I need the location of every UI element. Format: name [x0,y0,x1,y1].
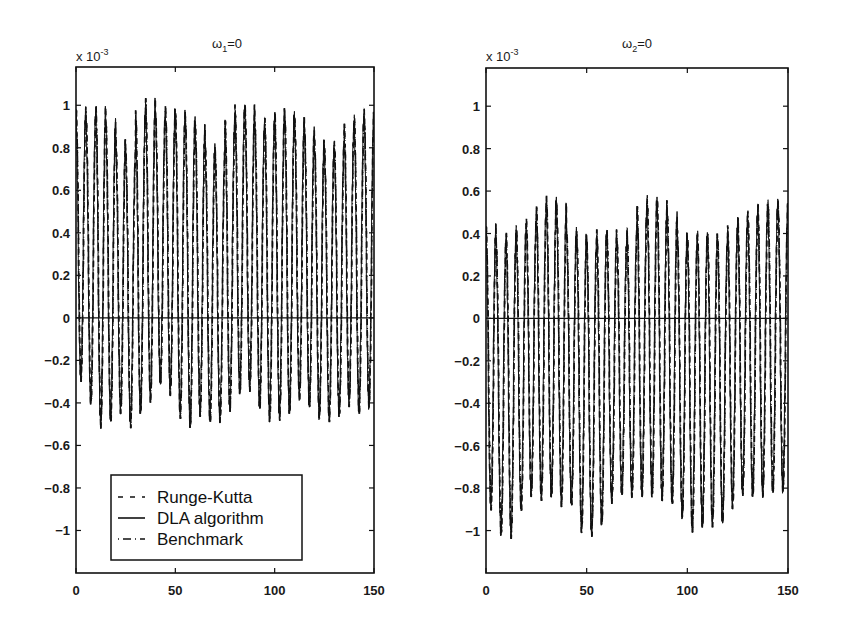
legend-label-benchmark: Benchmark [157,530,243,549]
right-plot: ω2=0 x 10-3 10.80.60.40.20−0.2−0.4−0.6−0… [454,36,799,598]
y-tick-label: 0.4 [462,227,481,242]
x-tick-label: 50 [579,583,593,598]
legend: Runge-Kutta DLA algorithm Benchmark [111,475,302,560]
left-plot-title: ω1=0 [212,36,242,54]
y-tick-label: −0.2 [44,353,70,368]
y-tick-label: −0.4 [454,396,480,411]
x-tick-label: 0 [72,583,79,598]
series-benchmark [76,99,374,429]
legend-label-dla: DLA algorithm [157,509,264,528]
y-tick-label: 0 [63,311,70,326]
right-plot-area [486,195,788,539]
omega-symbol: ω [212,36,222,51]
x-tick-label: 50 [168,583,182,598]
x-tick-label: 0 [482,583,489,598]
y-tick-label: 1 [473,99,480,114]
y-tick-label: 0.8 [462,142,480,157]
y-tick-label: −0.4 [44,396,70,411]
y-tick-label: 0.6 [462,184,480,199]
right-plot-title: ω2=0 [622,36,652,54]
y-tick-label: 0.8 [52,141,70,156]
right-multiplier-label: x 10-3 [486,47,519,64]
y-tick-label: 0.6 [52,183,70,198]
figure: ω1=0 x 10-3 10.80.60.40.20−0.2−0.4−0.6−0… [0,0,845,624]
left-plot-area [76,98,374,429]
left-plot: ω1=0 x 10-3 10.80.60.40.20−0.2−0.4−0.6−0… [44,36,385,598]
left-multiplier-label: x 10-3 [76,47,109,64]
y-tick-label: −0.8 [44,481,70,496]
y-tick-label: −0.6 [454,439,480,454]
y-tick-label: −1 [465,524,480,539]
omega-symbol: ω [622,36,632,51]
axes-frame [486,68,788,573]
right-axes: 10.80.60.40.20−0.2−0.4−0.6−0.8−105010015… [454,68,799,598]
x-tick-label: 100 [676,583,698,598]
y-tick-label: −0.2 [454,354,480,369]
x-tick-label: 150 [363,583,385,598]
title-rest: =0 [227,36,242,51]
y-tick-label: 0.2 [462,269,480,284]
y-tick-label: −1 [55,523,70,538]
title-rest: =0 [637,36,652,51]
y-tick-label: 0.2 [52,268,70,283]
legend-label-runge-kutta: Runge-Kutta [157,488,253,507]
y-tick-label: −0.8 [454,481,480,496]
y-tick-label: 0.4 [52,226,71,241]
y-tick-label: 1 [63,98,70,113]
y-tick-label: 0 [473,311,480,326]
x-tick-label: 100 [264,583,286,598]
y-tick-label: −0.6 [44,438,70,453]
x-tick-label: 150 [777,583,799,598]
